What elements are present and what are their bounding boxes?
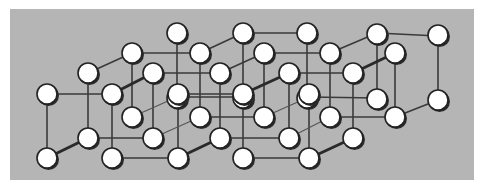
lattice-diagram: [0, 0, 486, 190]
